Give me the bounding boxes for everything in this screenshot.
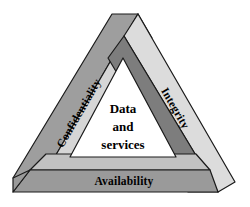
- cia-triad-diagram: Confidentiality Integrity Availability D…: [0, 0, 250, 207]
- center-line-3: services: [101, 137, 144, 152]
- label-availability: Availability: [94, 175, 153, 188]
- center-line-1: Data: [110, 101, 137, 116]
- triad-svg-canvas: Confidentiality Integrity Availability D…: [0, 0, 250, 207]
- center-line-2: and: [113, 119, 135, 134]
